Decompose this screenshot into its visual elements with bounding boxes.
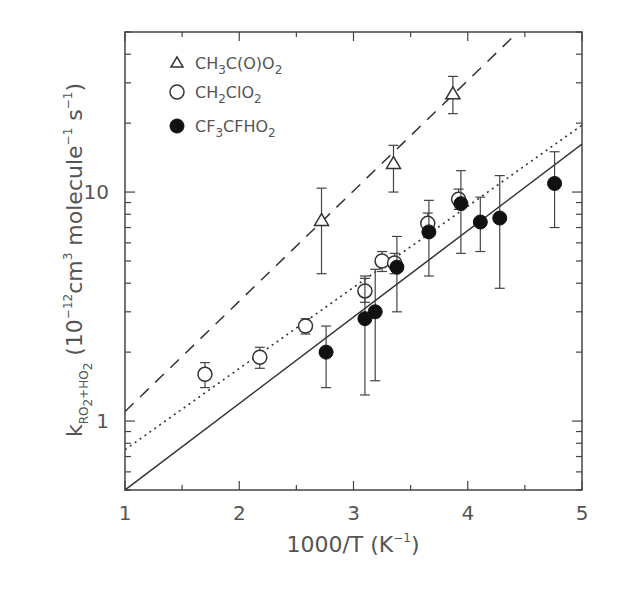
y-tick-label: 1 <box>96 409 109 433</box>
x-tick-labels: 12345 <box>119 501 589 525</box>
open-circle-marker <box>170 85 184 99</box>
triangle-marker <box>315 214 329 226</box>
open-circle-marker <box>375 254 389 268</box>
filled-circle-marker <box>170 119 184 133</box>
series-open-triangle <box>315 76 460 273</box>
x-tick-label: 1 <box>119 501 132 525</box>
filled-circle-marker <box>454 197 468 211</box>
triangle-marker <box>171 57 183 67</box>
fit-line-dotted <box>125 125 582 450</box>
filled-circle-marker <box>390 260 404 274</box>
x-tick-label: 4 <box>461 501 474 525</box>
filled-circle-marker <box>422 225 436 239</box>
open-circle-marker <box>299 319 313 333</box>
legend: CH3C(O)O2 CH2ClO2 CF3CFHO2 <box>170 54 282 140</box>
legend-item-cf3cfho2: CF3CFHO2 <box>195 117 276 140</box>
fit-line-solid <box>125 144 582 490</box>
x-tick-label: 3 <box>347 501 360 525</box>
filled-circle-marker <box>473 215 487 229</box>
triangle-marker <box>386 157 400 169</box>
series-open-circle <box>198 189 466 387</box>
open-circle-marker <box>253 350 267 364</box>
y-axis-label: kRO2+HO2 (10−12cm3 molecule−1 s−1) <box>61 83 95 437</box>
legend-markers <box>170 57 184 133</box>
axis-ticks <box>125 32 582 490</box>
chart: 12345 110 CH3C(O)O2 CH2ClO2 CF3CFHO2 100… <box>0 0 617 595</box>
filled-circle-marker <box>319 345 333 359</box>
fit-lines <box>125 32 582 490</box>
filled-circle-marker <box>368 305 382 319</box>
x-tick-label: 2 <box>233 501 246 525</box>
legend-item-ch3coo2: CH3C(O)O2 <box>195 54 282 77</box>
filled-circle-marker <box>548 176 562 190</box>
legend-item-ch2clo2: CH2ClO2 <box>195 83 262 106</box>
y-tick-label: 10 <box>84 180 109 204</box>
open-circle-marker <box>198 367 212 381</box>
filled-circle-marker <box>493 211 507 225</box>
triangle-marker <box>446 87 460 99</box>
x-tick-label: 5 <box>576 501 589 525</box>
x-axis-label: 1000/T (K−1) <box>286 531 419 557</box>
plot-frame <box>125 32 582 490</box>
